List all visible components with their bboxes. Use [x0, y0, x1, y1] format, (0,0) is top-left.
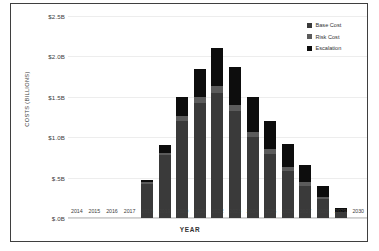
chart-legend: Base CostRisk CostEscalation: [307, 20, 341, 55]
y-axis-tick-label: $.5B: [52, 174, 65, 181]
bar-group: [226, 16, 244, 218]
x-axis-tick-label: 2020: [174, 208, 192, 214]
bar-segment-escalation: [247, 97, 259, 132]
x-axis-tick-label: 2028: [314, 208, 332, 214]
x-axis-tick-label: 2014: [68, 208, 86, 214]
x-axis-tick-label: 2024: [244, 208, 262, 214]
legend-item[interactable]: Risk Cost: [307, 32, 341, 42]
x-axis-tick-label: 2030: [349, 208, 367, 214]
bar-group: [244, 16, 262, 218]
legend-item[interactable]: Escalation: [307, 43, 341, 53]
y-axis-title: COSTS (BILLIONS): [24, 53, 30, 145]
legend-label: Risk Cost: [316, 34, 340, 40]
bar-group: [349, 16, 367, 218]
x-axis-tick-label: 2021: [191, 208, 209, 214]
legend-item[interactable]: Base Cost: [307, 20, 341, 30]
bar-segment-escalation: [176, 97, 188, 116]
legend-swatch-icon: [307, 23, 312, 28]
y-axis-tick-label: $1.0B: [48, 134, 65, 141]
bar-segment-risk-cost: [211, 86, 223, 93]
x-axis-tick-label: 2015: [86, 208, 104, 214]
x-axis-tick-label: 2026: [279, 208, 297, 214]
bar-group: [191, 16, 209, 218]
bar-group: [138, 16, 156, 218]
bar-group: [209, 16, 227, 218]
bar-group: [261, 16, 279, 218]
x-axis-tick-label: 2029: [332, 208, 350, 214]
bar-group: [174, 16, 192, 218]
gridline: [68, 218, 367, 219]
x-axis-tick-label: 2018: [138, 208, 156, 214]
bar-group: [121, 16, 139, 218]
x-axis-tick-label: 2016: [103, 208, 121, 214]
x-axis-tick-label: 2023: [226, 208, 244, 214]
x-axis-title: YEAR: [11, 226, 369, 233]
bar-segment-base-cost: [176, 121, 188, 218]
x-axis-tick-label: 2022: [209, 208, 227, 214]
x-axis-tick-label: 2019: [156, 208, 174, 214]
stacked-bar[interactable]: [211, 48, 223, 218]
legend-swatch-icon: [307, 46, 312, 51]
bar-segment-base-cost: [211, 93, 223, 218]
legend-label: Base Cost: [316, 22, 342, 28]
bar-group: [103, 16, 121, 218]
stacked-bar[interactable]: [194, 69, 206, 218]
bar-segment-escalation: [299, 165, 311, 183]
chart-screenshot: $2.5B$2.0B$1.5B$1.0B$.5B$.0B COSTS (BILL…: [0, 0, 379, 251]
bar-segment-escalation: [317, 186, 329, 197]
y-axis-labels: $2.5B$2.0B$1.5B$1.0B$.5B$.0B: [11, 16, 65, 218]
bar-group: [86, 16, 104, 218]
bar-group: [68, 16, 86, 218]
stacked-bar[interactable]: [247, 97, 259, 218]
y-axis-tick-label: $1.5B: [48, 93, 65, 100]
bar-segment-escalation: [282, 144, 294, 167]
bar-segment-escalation: [194, 69, 206, 97]
chart-frame: $2.5B$2.0B$1.5B$1.0B$.5B$.0B COSTS (BILL…: [10, 3, 368, 242]
bar-group: [279, 16, 297, 218]
bar-segment-base-cost: [229, 111, 241, 218]
bar-segment-base-cost: [194, 103, 206, 218]
stacked-bar[interactable]: [282, 144, 294, 218]
stacked-bar[interactable]: [229, 67, 241, 218]
y-axis-tick-label: $.0B: [52, 215, 65, 222]
x-axis-tick-label: 2025: [261, 208, 279, 214]
stacked-bar[interactable]: [264, 121, 276, 218]
stacked-bar[interactable]: [176, 97, 188, 218]
legend-label: Escalation: [316, 45, 342, 51]
bar-segment-base-cost: [247, 137, 259, 218]
x-axis-tick-label: 2027: [297, 208, 315, 214]
bar-segment-escalation: [159, 145, 171, 152]
bar-group: [156, 16, 174, 218]
bar-segment-escalation: [211, 48, 223, 85]
x-axis-tick-label: 2017: [121, 208, 139, 214]
y-axis-tick-label: $2.5B: [48, 13, 65, 20]
bar-segment-escalation: [229, 67, 241, 105]
bar-segment-escalation: [264, 121, 276, 149]
y-axis-tick-label: $2.0B: [48, 53, 65, 60]
legend-swatch-icon: [307, 34, 312, 39]
